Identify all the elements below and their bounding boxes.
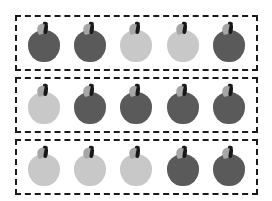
apple-body (28, 92, 60, 124)
group-row-1 (15, 15, 258, 71)
group-row-3 (15, 139, 258, 195)
apple-icon (73, 85, 107, 125)
apple-icon (27, 147, 61, 187)
apple-body (120, 92, 152, 124)
apple-body (213, 154, 245, 186)
apple-body (167, 154, 199, 186)
apple-icon (119, 23, 153, 63)
apple-body (213, 92, 245, 124)
apple-icon (73, 147, 107, 187)
apple-body (74, 30, 106, 62)
apple-body (120, 154, 152, 186)
image-canvas (0, 0, 272, 201)
apple-icon (212, 85, 246, 125)
apple-icon (212, 23, 246, 63)
apple-icon (27, 85, 61, 125)
apple-icon (27, 23, 61, 63)
apple-body (28, 30, 60, 62)
apple-icon (119, 85, 153, 125)
apple-icon (119, 147, 153, 187)
apple-icon (166, 147, 200, 187)
apple-body (167, 30, 199, 62)
apple-body (74, 154, 106, 186)
apple-icon (212, 147, 246, 187)
apple-icon (166, 23, 200, 63)
apple-body (213, 30, 245, 62)
group-row-2 (15, 77, 258, 133)
apple-group-stack (15, 15, 258, 195)
apple-body (28, 154, 60, 186)
apple-body (74, 92, 106, 124)
apple-body (167, 92, 199, 124)
apple-icon (166, 85, 200, 125)
apple-body (120, 30, 152, 62)
apple-icon (73, 23, 107, 63)
